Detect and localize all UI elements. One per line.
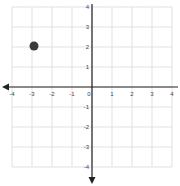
x-tick-label: 3 — [150, 91, 154, 97]
data-points — [30, 42, 39, 51]
y-tick-label: -2 — [84, 124, 90, 130]
x-tick-label: 1 — [110, 91, 114, 97]
x-tick-label: 2 — [130, 91, 134, 97]
data-point — [30, 42, 39, 51]
y-tick-label: -3 — [84, 144, 90, 150]
x-axis-arrow-icon — [2, 84, 9, 91]
y-tick-label: -4 — [84, 164, 90, 170]
x-tick-label: -3 — [29, 91, 35, 97]
x-tick-label: -4 — [9, 91, 15, 97]
y-tick-label: -1 — [84, 104, 90, 110]
x-tick-label: 0 — [87, 91, 91, 97]
y-axis-arrow-icon — [89, 177, 96, 184]
x-tick-label: -2 — [49, 91, 55, 97]
coordinate-plane: -4-3-2-1012344321-1-2-3-4 — [0, 0, 180, 186]
x-tick-label: -1 — [69, 91, 75, 97]
x-tick-label: 4 — [170, 91, 174, 97]
